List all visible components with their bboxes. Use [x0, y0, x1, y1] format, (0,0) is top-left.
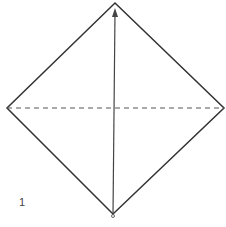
fold-arrow-shaft: [113, 12, 115, 214]
arrow-head-icon: [112, 8, 118, 17]
step-number: 1: [19, 196, 25, 208]
origami-diagram: [0, 0, 226, 227]
